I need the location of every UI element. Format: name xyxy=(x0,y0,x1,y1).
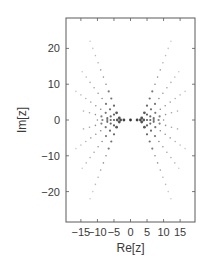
data-point xyxy=(118,121,121,124)
data-point xyxy=(160,169,162,171)
data-point xyxy=(146,114,148,116)
data-point xyxy=(166,87,168,89)
y-tick-label: 10 xyxy=(48,78,60,90)
data-point xyxy=(85,141,87,143)
data-point xyxy=(103,162,105,164)
data-point xyxy=(109,130,111,132)
data-point xyxy=(89,82,91,84)
data-point xyxy=(162,146,164,148)
data-point xyxy=(158,119,160,121)
data-point xyxy=(170,82,172,84)
data-point xyxy=(129,119,132,122)
data-point xyxy=(106,117,108,119)
data-point xyxy=(105,103,107,105)
data-point xyxy=(184,148,186,150)
data-point xyxy=(113,119,115,121)
data-point xyxy=(154,155,156,157)
data-point xyxy=(83,110,85,112)
data-point xyxy=(149,119,151,121)
data-point xyxy=(158,141,160,143)
data-point xyxy=(109,108,111,110)
data-point xyxy=(140,121,143,124)
data-point xyxy=(95,184,97,186)
data-point xyxy=(123,119,126,122)
data-point xyxy=(95,114,97,116)
data-point xyxy=(174,98,176,100)
data-point xyxy=(159,123,161,125)
x-tick-label: −10 xyxy=(88,226,107,238)
data-point xyxy=(178,71,180,73)
data-point xyxy=(170,41,172,43)
data-point xyxy=(154,83,156,85)
data-point xyxy=(146,105,148,107)
data-point xyxy=(81,71,83,73)
data-point xyxy=(105,155,107,157)
y-tick-label: 0 xyxy=(54,114,60,126)
data-point xyxy=(110,123,112,125)
data-point xyxy=(100,130,102,132)
data-point xyxy=(150,108,152,110)
data-point xyxy=(100,69,102,71)
data-point xyxy=(174,141,176,143)
data-point xyxy=(157,76,159,78)
data-point xyxy=(154,112,156,114)
data-point xyxy=(97,146,99,148)
data-point xyxy=(97,92,99,94)
data-point xyxy=(154,103,156,105)
data-point xyxy=(164,134,166,136)
data-point xyxy=(179,94,181,96)
data-point xyxy=(149,123,151,125)
data-point xyxy=(113,133,115,135)
data-point xyxy=(93,151,95,153)
data-point xyxy=(83,128,85,130)
data-point xyxy=(110,140,112,142)
data-point xyxy=(110,119,112,121)
data-point xyxy=(171,112,173,114)
data-point xyxy=(159,115,161,117)
data-point xyxy=(89,157,91,159)
data-point xyxy=(100,115,102,117)
x-axis-ticks: −15−10−5051015 xyxy=(72,18,187,238)
data-point xyxy=(149,97,151,99)
data-point xyxy=(118,117,121,120)
data-point xyxy=(170,157,172,159)
data-point xyxy=(92,48,94,50)
data-point xyxy=(154,135,156,137)
data-point xyxy=(89,198,91,200)
data-point xyxy=(97,177,99,179)
data-point xyxy=(151,90,153,92)
data-point xyxy=(167,191,169,193)
data-point xyxy=(151,148,153,150)
data-point xyxy=(101,141,103,143)
data-point xyxy=(105,83,107,85)
data-point xyxy=(149,115,151,117)
data-point xyxy=(95,134,97,136)
data-point xyxy=(113,114,115,116)
data-point xyxy=(174,162,176,164)
data-point xyxy=(110,115,112,117)
x-axis-label: Re[z] xyxy=(116,241,144,255)
data-point xyxy=(160,130,162,132)
data-point xyxy=(165,184,167,186)
data-point xyxy=(150,130,152,132)
data-point xyxy=(92,191,94,193)
data-point xyxy=(174,76,176,78)
data-point xyxy=(178,168,180,170)
x-tick-label: 5 xyxy=(144,226,150,238)
data-point xyxy=(80,94,82,96)
data-point xyxy=(100,169,102,171)
y-tick-label: −10 xyxy=(41,150,60,162)
data-point xyxy=(115,111,118,114)
scatter-chart: −15−10−5051015 −20−1001020 Re[z] Im[z] xyxy=(0,0,204,270)
y-axis-label: Im[z] xyxy=(15,107,29,133)
data-point xyxy=(149,140,151,142)
data-point xyxy=(162,92,164,94)
data-point xyxy=(179,144,181,146)
data-point xyxy=(142,119,145,122)
data-point xyxy=(154,126,156,128)
data-point xyxy=(143,111,146,114)
data-point xyxy=(93,87,95,89)
data-point xyxy=(169,137,171,139)
y-tick-label: 20 xyxy=(48,42,60,54)
x-tick-label: 15 xyxy=(174,226,186,238)
